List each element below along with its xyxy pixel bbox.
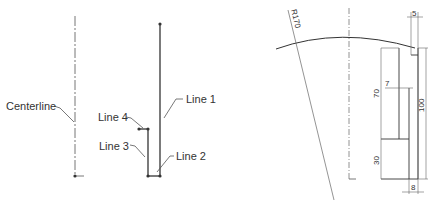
dim-5-value[interactable]: 5: [412, 9, 417, 18]
drawing-canvas: Centerline Line 1 Line 4 Line 3 Line 2 R…: [0, 0, 438, 206]
line3-leader: [130, 145, 145, 157]
line4-leader: [126, 117, 143, 128]
label-line-3: Line 3: [99, 140, 129, 152]
label-centerline: Centerline: [6, 100, 56, 112]
label-line-4: Line 4: [98, 111, 128, 123]
radius-label: R170: [289, 8, 302, 29]
line-2-endpoint-right[interactable]: [158, 174, 161, 177]
dim-8-value[interactable]: 8: [411, 183, 416, 192]
radius-line[interactable]: [288, 10, 334, 200]
line-4-endpoint-right[interactable]: [146, 127, 149, 130]
label-line-1: Line 1: [186, 93, 216, 105]
centerline-leader: [54, 106, 74, 122]
line-4-endpoint-left[interactable]: [137, 127, 140, 130]
right-sketch: R170 5 7 70 30 100 8: [276, 8, 428, 200]
label-line-2: Line 2: [176, 150, 206, 162]
dim-70-value[interactable]: 70: [372, 89, 381, 98]
line-1-endpoint[interactable]: [158, 22, 161, 25]
dim-100-value[interactable]: 100: [417, 98, 426, 112]
dim-7-value[interactable]: 7: [385, 79, 390, 88]
line1-leader: [164, 99, 183, 118]
left-sketch: Centerline Line 1 Line 4 Line 3 Line 2: [6, 16, 216, 178]
dim-30-value[interactable]: 30: [372, 156, 381, 165]
